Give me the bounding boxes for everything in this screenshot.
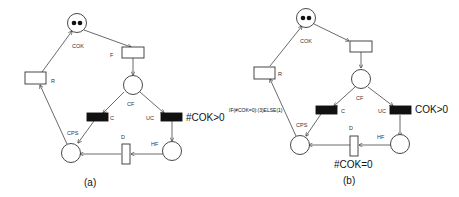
label-hf: HF — [377, 134, 385, 140]
arc-weight-cps-r: IF(#COK=0):(3)ELSE(1) — [229, 107, 283, 113]
caption-a: (a) — [84, 177, 96, 188]
label-r: R — [51, 78, 55, 84]
transition-uc[interactable] — [161, 113, 182, 121]
arc-c-cps — [306, 114, 321, 136]
transition-c[interactable] — [87, 113, 108, 121]
petri-net-figure: COK F R CF C UC #COK>0 CPS D HF (a) — [0, 0, 459, 197]
place-hf[interactable] — [163, 142, 182, 161]
token — [301, 16, 306, 21]
place-cps[interactable] — [291, 136, 310, 155]
petri-net-a: COK F R CF C UC #COK>0 CPS D HF (a) — [25, 14, 225, 189]
token — [72, 21, 77, 26]
label-cf: CF — [356, 95, 364, 101]
place-cf[interactable] — [352, 70, 371, 89]
transition-r[interactable] — [254, 67, 275, 79]
label-uc: UC — [378, 108, 386, 114]
label-cok: COK — [72, 43, 84, 49]
label-f: F — [110, 52, 114, 58]
petri-net-b: COK R CF C UC COK>0 IF(#COK=0):(3)ELSE(1… — [229, 9, 449, 187]
place-hf[interactable] — [391, 135, 410, 154]
place-cok[interactable] — [297, 9, 316, 28]
guard-uc: #COK>0 — [186, 112, 225, 123]
arc-cf-c — [103, 92, 124, 113]
guard-d: #COK=0 — [334, 159, 373, 170]
label-c: C — [110, 115, 114, 121]
arc-cok-f — [84, 30, 131, 47]
transition-d[interactable] — [122, 144, 130, 164]
place-cok[interactable] — [68, 14, 87, 33]
transition-d[interactable] — [350, 136, 358, 156]
transition-f[interactable] — [350, 41, 372, 52]
arc-cf-uc — [368, 87, 393, 106]
label-d: D — [349, 125, 353, 131]
caption-b: (b) — [343, 175, 355, 186]
arc-cps-r — [40, 85, 67, 144]
label-cok: COK — [300, 38, 312, 44]
token — [307, 16, 312, 21]
place-cf[interactable] — [124, 76, 143, 95]
arc-cf-c — [334, 87, 355, 106]
arc-r-cok — [42, 31, 72, 72]
label-hf: HF — [151, 141, 159, 147]
label-c: C — [341, 108, 345, 114]
transition-f[interactable] — [122, 47, 144, 58]
arc-c-cps — [78, 121, 94, 143]
label-d: D — [121, 134, 125, 140]
arc-r-cok — [270, 26, 302, 66]
label-cps: CPS — [296, 122, 308, 128]
label-uc: UC — [146, 115, 154, 121]
arc-cf-uc — [140, 92, 164, 113]
place-cps[interactable] — [62, 144, 81, 163]
guard-uc: COK>0 — [415, 104, 449, 115]
label-r: R — [278, 71, 282, 77]
arc-cok-f — [314, 24, 349, 41]
transition-c[interactable] — [316, 106, 337, 114]
token — [78, 21, 83, 26]
transition-r[interactable] — [25, 72, 46, 84]
transition-uc[interactable] — [390, 106, 411, 114]
label-cf: CF — [127, 101, 135, 107]
label-cps: CPS — [67, 130, 79, 136]
